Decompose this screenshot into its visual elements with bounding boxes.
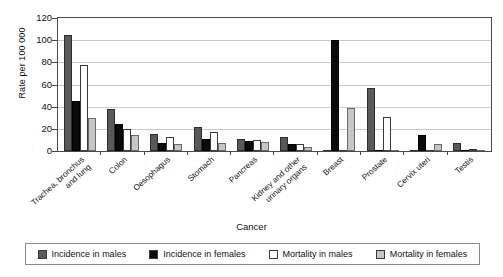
bar: [210, 132, 218, 151]
bar: [280, 137, 288, 151]
bar-group: [101, 18, 144, 151]
bar: [410, 150, 418, 151]
bar: [174, 144, 182, 151]
legend-label: Incidence in males: [52, 249, 127, 259]
bar: [64, 35, 72, 151]
bar: [339, 150, 347, 151]
bar: [391, 150, 399, 151]
bar: [331, 40, 339, 151]
bar: [375, 150, 383, 151]
y-tick-label: 20: [12, 124, 52, 133]
bar: [158, 143, 166, 151]
bar: [107, 109, 115, 151]
bar: [323, 150, 331, 151]
legend-item: Mortality in females: [376, 249, 468, 259]
bar: [418, 135, 426, 151]
legend-label: Incidence in females: [163, 249, 245, 259]
y-tick-mark: [52, 62, 57, 63]
bar: [245, 141, 253, 151]
bar: [131, 135, 139, 151]
legend-item: Mortality in males: [269, 249, 353, 259]
y-tick-label: 120: [12, 13, 52, 22]
bar-group: [448, 18, 491, 151]
legend-label: Mortality in males: [283, 249, 353, 259]
y-tick-label: 60: [12, 80, 52, 89]
bar: [367, 88, 375, 151]
bar: [253, 140, 261, 151]
bar: [383, 117, 391, 151]
bar-group: [145, 18, 188, 151]
bar: [72, 101, 80, 151]
y-tick-mark: [52, 129, 57, 130]
x-axis-title: Cancer: [0, 221, 503, 232]
bar: [115, 124, 123, 151]
bar: [237, 139, 245, 151]
bar-group: [58, 18, 101, 151]
bar: [434, 144, 442, 151]
bar-group: [404, 18, 447, 151]
bar: [166, 137, 174, 151]
y-tick-label: 80: [12, 57, 52, 66]
bar: [469, 149, 477, 151]
legend-item: Incidence in males: [38, 249, 127, 259]
legend-swatch-icon: [269, 250, 278, 259]
bar: [261, 142, 269, 151]
chart-legend: Incidence in malesIncidence in femalesMo…: [25, 243, 480, 265]
bar-group: [318, 18, 361, 151]
y-tick-mark: [52, 40, 57, 41]
y-tick-mark: [52, 18, 57, 19]
bar-group: [274, 18, 317, 151]
x-axis-category-labels: Trachea, bronchusand lungColonOesophagus…: [58, 155, 491, 217]
bar: [296, 144, 304, 151]
bar-chart: Rate per 100 000 020406080100120 Trachea…: [0, 0, 503, 277]
legend-swatch-icon: [376, 250, 385, 259]
legend-label: Mortality in females: [390, 249, 468, 259]
y-tick-mark: [52, 85, 57, 86]
bar: [426, 150, 434, 151]
bar-group: [188, 18, 231, 151]
y-tick-label: 0: [12, 146, 52, 155]
y-tick-mark: [52, 151, 57, 152]
bar: [304, 147, 312, 151]
bar: [218, 143, 226, 151]
bar: [477, 150, 485, 151]
bar: [194, 127, 202, 151]
y-tick-mark: [52, 107, 57, 108]
bar: [461, 150, 469, 151]
bar: [88, 118, 96, 151]
bar: [288, 144, 296, 151]
legend-swatch-icon: [38, 250, 47, 259]
bar: [123, 129, 131, 151]
y-tick-label: 40: [12, 102, 52, 111]
bar-group: [361, 18, 404, 151]
bar: [347, 108, 355, 151]
legend-swatch-icon: [149, 250, 158, 259]
legend-item: Incidence in females: [149, 249, 245, 259]
bar: [80, 65, 88, 151]
bar-groups: [58, 18, 491, 151]
bar: [453, 143, 461, 151]
y-tick-label: 100: [12, 35, 52, 44]
bar: [150, 134, 158, 151]
bar: [202, 139, 210, 151]
bar-group: [231, 18, 274, 151]
